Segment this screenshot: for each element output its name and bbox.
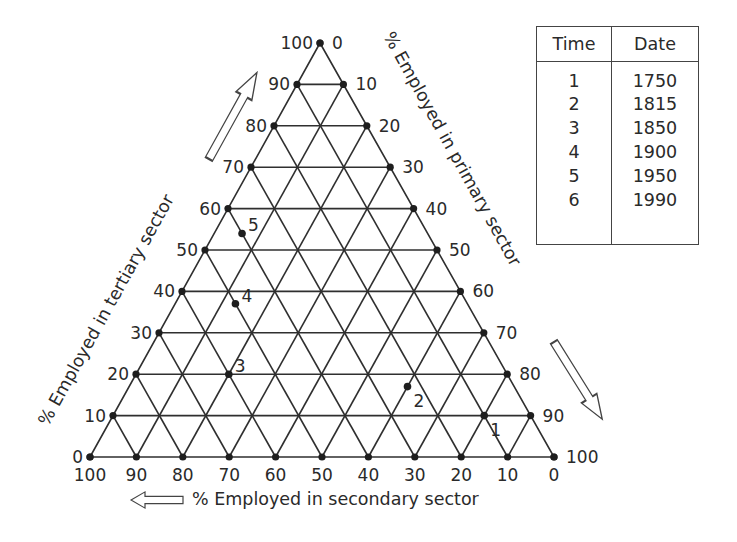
tertiary-tick: 30 — [130, 323, 152, 343]
secondary-tick: 20 — [450, 465, 472, 485]
tertiary-tick: 10 — [84, 406, 106, 426]
tertiary-tick: 70 — [222, 157, 244, 177]
table-spacer — [537, 212, 698, 245]
secondary-axis-title: % Employed in secondary sector — [192, 489, 480, 509]
cell-date: 1750 — [612, 62, 699, 92]
table-row: 51950 — [537, 164, 698, 188]
primary-tick: 90 — [543, 406, 565, 426]
header-time: Time — [537, 27, 612, 62]
primary-tick: 70 — [496, 323, 518, 343]
primary-axis-title: % Employed in primary sector — [380, 28, 526, 270]
time-date-table: Time Date 11750 21815 31850 41900 51950 … — [536, 26, 699, 245]
cell-time: 5 — [537, 164, 612, 188]
primary-tick: 80 — [519, 364, 541, 384]
tertiary-axis-title: % Employed in tertiary sector — [34, 190, 178, 429]
table-row: 21815 — [537, 92, 698, 116]
cell-date: 1850 — [612, 116, 699, 140]
primary-tick: 10 — [355, 74, 377, 94]
table-row: 11750 — [537, 62, 698, 92]
tertiary-tick: 90 — [268, 74, 290, 94]
data-point — [225, 370, 233, 378]
tertiary-tick: 40 — [153, 281, 175, 301]
data-point-label: 3 — [235, 356, 246, 376]
primary-tick: 60 — [472, 281, 494, 301]
cell-time: 1 — [537, 62, 612, 92]
tertiary-tick: 60 — [199, 199, 221, 219]
header-date: Date — [612, 27, 699, 62]
secondary-tick: 80 — [172, 465, 194, 485]
data-point — [480, 412, 488, 420]
table-row: 31850 — [537, 116, 698, 140]
cell-time: 6 — [537, 188, 612, 212]
tertiary-tick: 100 — [281, 33, 313, 53]
secondary-tick: 30 — [404, 465, 426, 485]
secondary-arrow-icon — [131, 492, 183, 508]
table-row: 41900 — [537, 140, 698, 164]
tertiary-tick: 0 — [72, 447, 83, 467]
data-point — [238, 230, 246, 238]
primary-tick: 0 — [332, 33, 343, 53]
data-point-label: 1 — [490, 420, 501, 440]
secondary-tick: 70 — [218, 465, 240, 485]
data-point — [404, 383, 412, 391]
data-point-label: 2 — [414, 391, 425, 411]
cell-time: 4 — [537, 140, 612, 164]
primary-tick: 20 — [379, 116, 401, 136]
cell-date: 1815 — [612, 92, 699, 116]
primary-tick: 30 — [402, 157, 424, 177]
cell-time: 2 — [537, 92, 612, 116]
primary-tick: 100 — [566, 447, 598, 467]
tertiary-tick: 50 — [176, 240, 198, 260]
secondary-tick: 50 — [311, 465, 333, 485]
cell-date: 1950 — [612, 164, 699, 188]
secondary-tick: 60 — [265, 465, 287, 485]
data-point — [232, 300, 240, 308]
secondary-tick: 10 — [497, 465, 519, 485]
secondary-tick-labels: 1009080706050403020100 — [74, 465, 560, 485]
cell-time: 3 — [537, 116, 612, 140]
tertiary-tick: 20 — [107, 364, 129, 384]
secondary-tick: 90 — [126, 465, 148, 485]
data-point-label: 5 — [248, 215, 259, 235]
secondary-tick: 40 — [358, 465, 380, 485]
table-row: 61990 — [537, 188, 698, 212]
cell-date: 1990 — [612, 188, 699, 212]
secondary-tick: 0 — [549, 465, 560, 485]
secondary-tick: 100 — [74, 465, 106, 485]
ternary-grid — [90, 43, 554, 457]
primary-tick: 50 — [449, 240, 471, 260]
primary-tick: 40 — [426, 199, 448, 219]
tertiary-tick: 80 — [245, 116, 267, 136]
data-point-label: 4 — [241, 286, 252, 306]
cell-date: 1900 — [612, 140, 699, 164]
